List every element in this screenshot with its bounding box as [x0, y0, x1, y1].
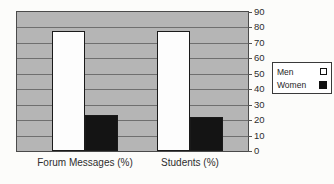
y-tick-50 [248, 74, 252, 75]
y-tick-10 [248, 136, 252, 137]
y-tick-80 [248, 27, 252, 28]
bar-men-students [157, 31, 190, 151]
legend-label-women: Women [277, 80, 306, 90]
y-tick-90 [248, 12, 252, 13]
y-tick-40 [248, 89, 252, 90]
filled-square-icon [319, 81, 327, 89]
legend-label-men: Men [277, 67, 294, 77]
y-tick-label-70: 70 [254, 37, 276, 49]
gridline-80 [17, 27, 248, 28]
y-tick-label-20: 20 [254, 114, 276, 126]
x-category-label-forum-messages: Forum Messages (%) [37, 157, 133, 168]
plot-area [16, 11, 249, 152]
bar-men-forum-messages [52, 31, 85, 151]
y-tick-70 [248, 43, 252, 44]
y-tick-20 [248, 120, 252, 121]
y-tick-0 [248, 151, 252, 152]
y-tick-label-80: 80 [254, 21, 276, 33]
y-tick-label-0: 0 [254, 145, 276, 157]
hollow-square-icon [320, 68, 327, 75]
y-tick-30 [248, 105, 252, 106]
y-tick-label-90: 90 [254, 6, 276, 18]
y-tick-60 [248, 58, 252, 59]
y-tick-label-10: 10 [254, 130, 276, 142]
bar-women-forum-messages [85, 115, 118, 151]
legend-item-women: Women [277, 78, 327, 91]
legend-item-men: Men [277, 65, 327, 78]
chart-canvas: 0102030405060708090 Forum Messages (%)St… [0, 0, 334, 184]
bar-women-students [190, 117, 223, 151]
y-tick-label-30: 30 [254, 99, 276, 111]
x-category-label-students: Students (%) [161, 157, 219, 168]
legend: MenWomen [272, 62, 332, 94]
